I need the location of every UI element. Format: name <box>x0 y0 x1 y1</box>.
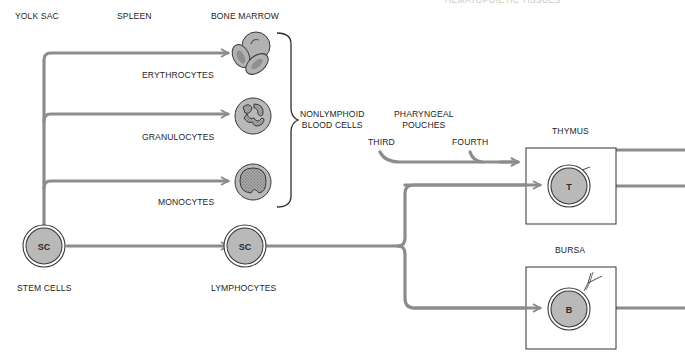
bursa-label: BURSA <box>555 245 585 256</box>
lymphocytes-label: LYMPHOCYTES <box>211 283 276 294</box>
nonlymphoid-group-label: NONLYMPHOID BLOOD CELLS <box>300 109 364 130</box>
bone-marrow-label: BONE MARROW <box>211 11 279 22</box>
granulocytes-label: GRANULOCYTES <box>142 132 214 143</box>
thymus-label: THYMUS <box>552 126 589 137</box>
third-pouch-label: THIRD <box>368 137 395 148</box>
stem-cell-icon: SC <box>23 225 65 267</box>
svg-text:B: B <box>566 305 573 315</box>
granulocyte-icon <box>235 98 271 134</box>
monocyte-icon <box>235 164 271 200</box>
nonlymphoid-bracket <box>277 33 298 207</box>
pharyngeal-pouches-label: PHARYNGEAL POUCHES <box>394 109 454 130</box>
nonlymphoid-line1: NONLYMPHOID <box>300 109 364 120</box>
nonlymphoid-line2: BLOOD CELLS <box>300 120 364 131</box>
pharyngeal-line1: PHARYNGEAL <box>394 109 454 120</box>
lymphocyte-differentiation-diagram: SC SC T B <box>0 0 685 361</box>
stem-cells-label: STEM CELLS <box>17 283 72 294</box>
svg-text:SC: SC <box>239 242 252 252</box>
cropped-heading: HEMATOPOIETIC TISSUES <box>445 0 561 5</box>
fourth-pouch-label: FOURTH <box>452 137 488 148</box>
lymphocyte-cell-icon: SC <box>224 225 266 267</box>
diagram-canvas: SC SC T B <box>0 0 685 361</box>
svg-text:SC: SC <box>38 242 51 252</box>
pharyngeal-line2: POUCHES <box>394 120 454 131</box>
yolk-sac-label: YOLK SAC <box>15 11 59 22</box>
svg-text:T: T <box>566 182 572 192</box>
monocytes-label: MONOCYTES <box>158 197 214 208</box>
erythrocytes-label: ERYTHROCYTES <box>142 70 214 81</box>
erythrocytes-icon <box>229 32 272 78</box>
spleen-label: SPLEEN <box>117 11 152 22</box>
